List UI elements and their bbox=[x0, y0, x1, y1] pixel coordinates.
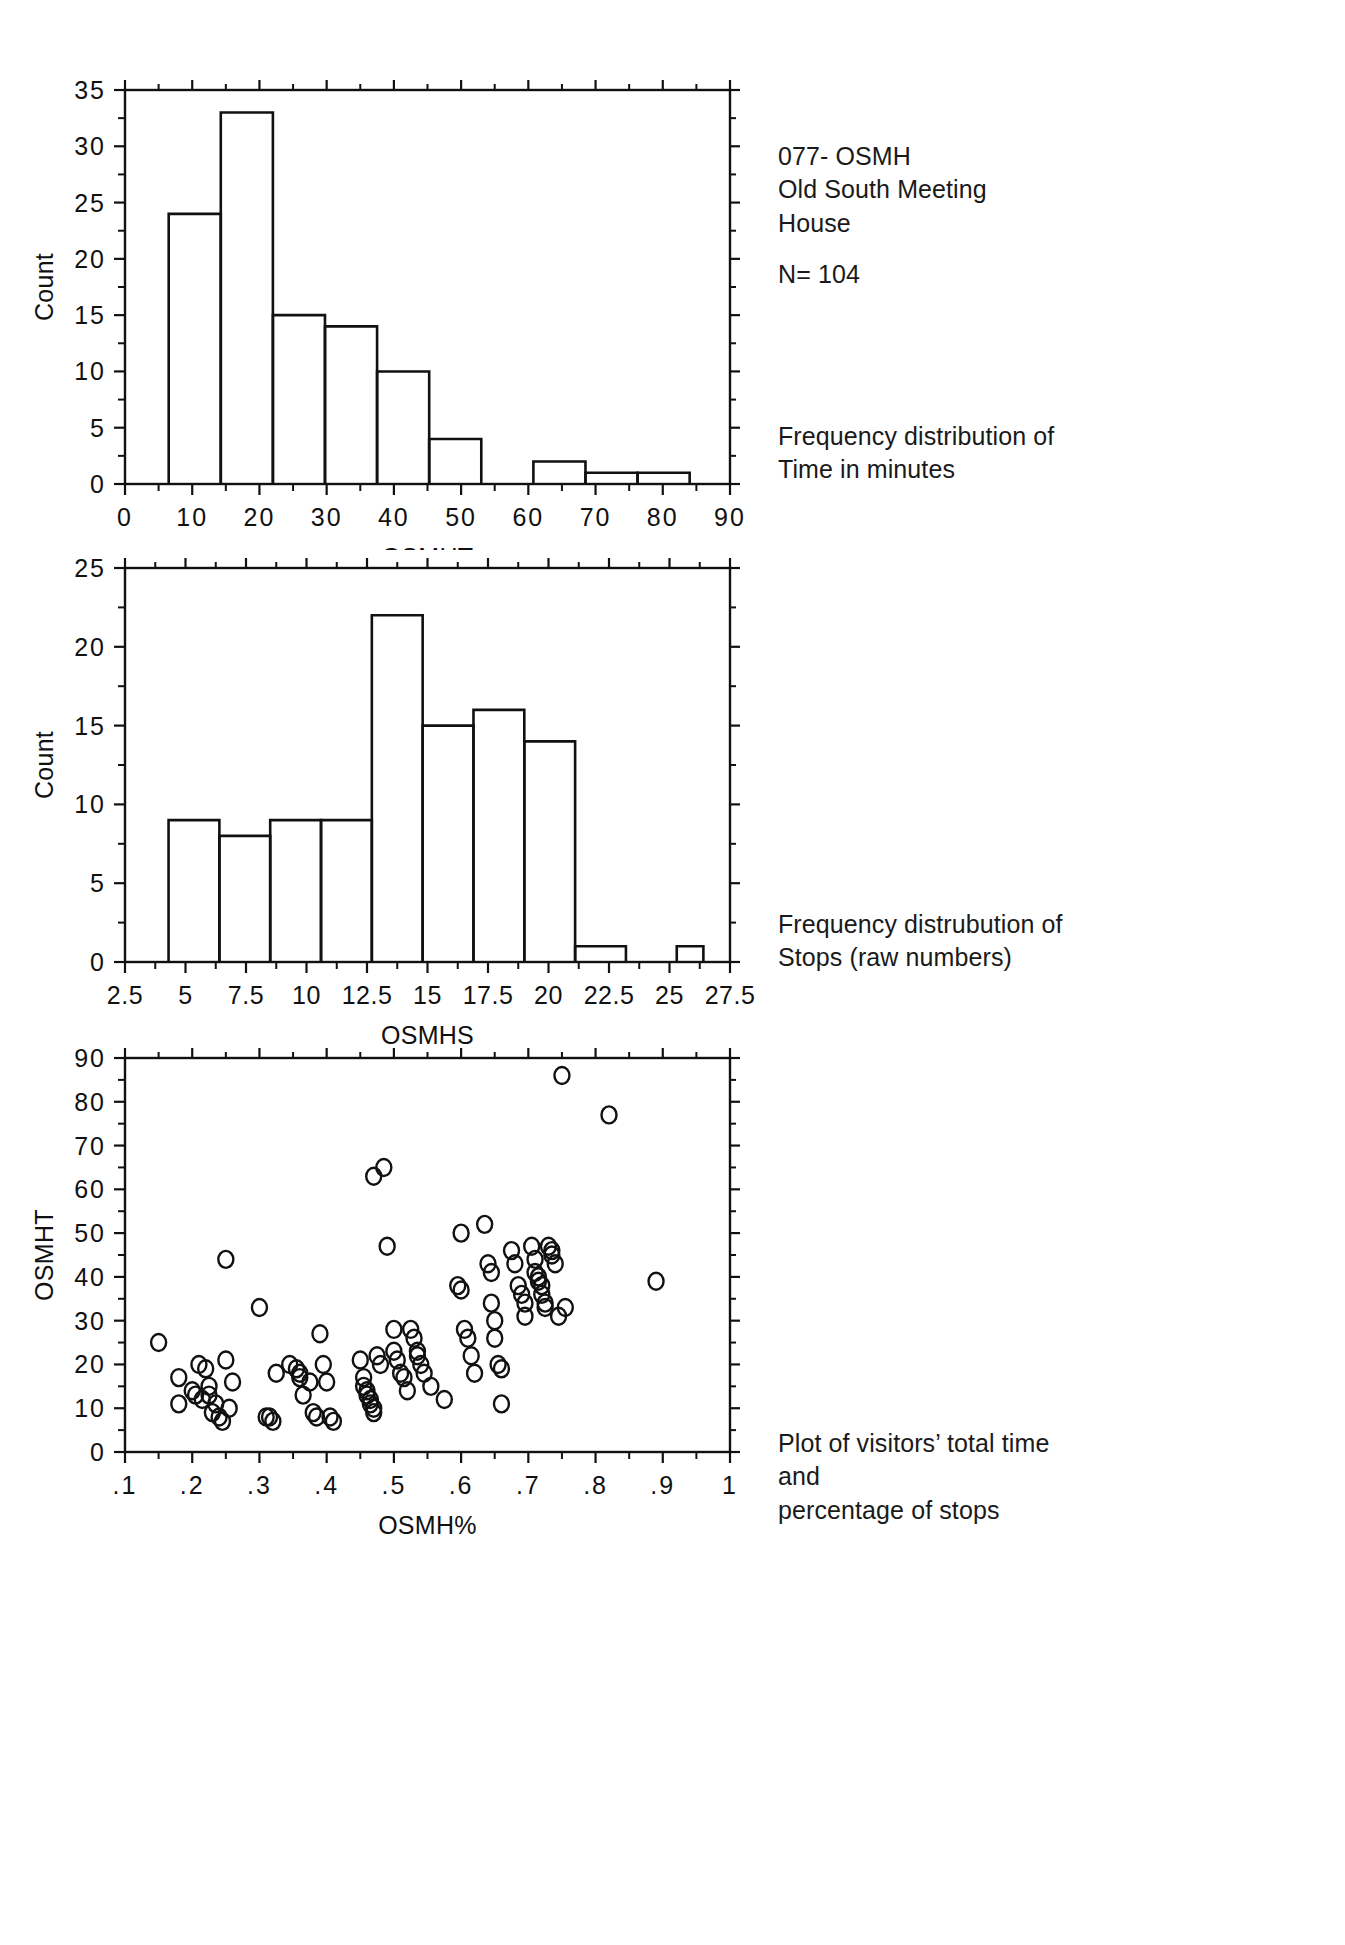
x-tick-label: 30 bbox=[311, 503, 343, 531]
x-tick-label: .3 bbox=[247, 1471, 272, 1499]
scatter-point bbox=[171, 1369, 186, 1386]
x-tick-label: 70 bbox=[580, 503, 612, 531]
scatter-point bbox=[467, 1365, 482, 1382]
scatter-point bbox=[602, 1106, 617, 1123]
y-tick-label: 5 bbox=[90, 414, 106, 442]
y-tick-label: 10 bbox=[74, 357, 106, 385]
figure-header-title: 077- OSMH Old South Meeting House bbox=[778, 140, 1078, 240]
x-tick-label: 50 bbox=[445, 503, 477, 531]
scatter-point bbox=[484, 1295, 499, 1312]
scatter-point bbox=[649, 1273, 664, 1290]
osmht-histogram-svg: 051015202530350102030405060708090OSMHTCo… bbox=[0, 60, 790, 550]
histogram-bar bbox=[429, 439, 481, 484]
scatter-point bbox=[386, 1321, 401, 1338]
scatter-point bbox=[454, 1225, 469, 1242]
x-tick-label: 60 bbox=[512, 503, 544, 531]
y-tick-label: 20 bbox=[74, 1350, 106, 1378]
x-tick-label: 10 bbox=[176, 503, 208, 531]
scatter-point bbox=[326, 1413, 341, 1430]
histogram-bar bbox=[423, 726, 474, 962]
y-tick-label: 30 bbox=[74, 132, 106, 160]
x-tick-label: .4 bbox=[314, 1471, 339, 1499]
histogram-bar bbox=[372, 615, 423, 962]
scatter-point bbox=[487, 1312, 502, 1329]
plot-frame bbox=[125, 90, 730, 484]
x-tick-label: 27.5 bbox=[705, 981, 756, 1009]
y-axis-title: Count bbox=[30, 731, 58, 799]
panel-osmhs-histogram: 05101520252.557.51012.51517.52022.52527.… bbox=[0, 548, 1345, 1048]
x-tick-label: 0 bbox=[117, 503, 133, 531]
x-tick-label: .6 bbox=[449, 1471, 474, 1499]
scatter-point bbox=[225, 1373, 240, 1390]
plot-frame bbox=[125, 568, 730, 962]
scatter-point bbox=[423, 1378, 438, 1395]
scatter-point bbox=[312, 1325, 327, 1342]
scatter-point bbox=[494, 1395, 509, 1412]
y-tick-label: 15 bbox=[74, 712, 106, 740]
x-tick-label: 12.5 bbox=[342, 981, 393, 1009]
scatter-point bbox=[319, 1373, 334, 1390]
panel-osmh-scatter: 0102030405060708090.1.2.3.4.5.6.7.8.91OS… bbox=[0, 1040, 1345, 1560]
x-tick-label: 22.5 bbox=[584, 981, 635, 1009]
histogram-bar bbox=[273, 315, 325, 484]
x-tick-label: .7 bbox=[516, 1471, 541, 1499]
histogram-bar bbox=[575, 946, 626, 962]
scatter-point bbox=[353, 1352, 368, 1369]
x-tick-label: .9 bbox=[650, 1471, 675, 1499]
x-tick-label: .5 bbox=[381, 1471, 406, 1499]
y-tick-label: 50 bbox=[74, 1219, 106, 1247]
x-tick-label: 40 bbox=[378, 503, 410, 531]
y-tick-label: 35 bbox=[74, 76, 106, 104]
y-tick-label: 60 bbox=[74, 1175, 106, 1203]
x-tick-label: 90 bbox=[714, 503, 746, 531]
scatter-point bbox=[464, 1347, 479, 1364]
y-tick-label: 20 bbox=[74, 633, 106, 661]
y-tick-label: 0 bbox=[90, 470, 106, 498]
histogram-bar bbox=[321, 820, 372, 962]
histogram-bar bbox=[270, 820, 321, 962]
x-tick-label: 10 bbox=[292, 981, 321, 1009]
y-tick-label: 25 bbox=[74, 554, 106, 582]
histogram-bar bbox=[473, 710, 524, 962]
histogram-bar bbox=[169, 820, 220, 962]
osmh-scatter-svg: 0102030405060708090.1.2.3.4.5.6.7.8.91OS… bbox=[0, 1040, 790, 1560]
histogram-bar bbox=[585, 473, 637, 484]
caption-panel-2: Frequency distrubution of Stops (raw num… bbox=[778, 908, 1078, 975]
x-axis-title: OSMH% bbox=[378, 1511, 477, 1539]
scatter-point bbox=[151, 1334, 166, 1351]
x-tick-label: 7.5 bbox=[228, 981, 264, 1009]
histogram-bar bbox=[677, 946, 704, 962]
histogram-bar bbox=[638, 473, 690, 484]
x-tick-label: 20 bbox=[534, 981, 563, 1009]
scatter-point bbox=[222, 1400, 237, 1417]
scatter-point bbox=[252, 1299, 267, 1316]
histogram-bar bbox=[221, 113, 273, 484]
scatter-point bbox=[316, 1356, 331, 1373]
y-tick-label: 15 bbox=[74, 301, 106, 329]
scatter-point bbox=[185, 1382, 200, 1399]
scatter-point bbox=[380, 1238, 395, 1255]
x-tick-label: 20 bbox=[244, 503, 276, 531]
y-tick-label: 30 bbox=[74, 1307, 106, 1335]
y-axis-title: Count bbox=[30, 253, 58, 321]
y-tick-label: 70 bbox=[74, 1132, 106, 1160]
scatter-point bbox=[554, 1067, 569, 1084]
panel-osmht-histogram: 051015202530350102030405060708090OSMHTCo… bbox=[0, 60, 1345, 550]
y-axis-title: OSMHT bbox=[30, 1209, 58, 1301]
y-tick-label: 25 bbox=[74, 189, 106, 217]
caption-panel-3: Plot of visitors’ total time and percent… bbox=[778, 1427, 1098, 1527]
x-tick-label: .8 bbox=[583, 1471, 608, 1499]
x-tick-label: 5 bbox=[178, 981, 192, 1009]
histogram-bar bbox=[219, 836, 270, 962]
scatter-point bbox=[437, 1391, 452, 1408]
x-tick-label: 1 bbox=[722, 1471, 738, 1499]
histogram-bar bbox=[524, 741, 575, 962]
figure-page: 051015202530350102030405060708090OSMHTCo… bbox=[0, 0, 1345, 1945]
y-tick-label: 10 bbox=[74, 790, 106, 818]
y-tick-label: 80 bbox=[74, 1088, 106, 1116]
scatter-point bbox=[450, 1277, 465, 1294]
histogram-bar bbox=[377, 371, 429, 484]
scatter-point bbox=[171, 1395, 186, 1412]
y-tick-label: 90 bbox=[74, 1044, 106, 1072]
sample-size-label: N= 104 bbox=[778, 258, 1078, 291]
